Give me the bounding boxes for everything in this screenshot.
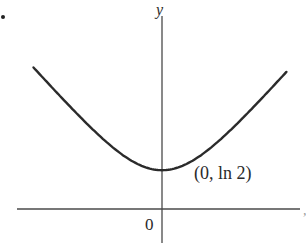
point-label: (0, ln 2) [194, 164, 252, 182]
origin-label: 0 [145, 216, 154, 233]
function-curve [34, 68, 287, 171]
graph-figure [0, 0, 306, 243]
y-axis-label: y [156, 2, 163, 18]
x-axis-label: , [303, 204, 306, 218]
